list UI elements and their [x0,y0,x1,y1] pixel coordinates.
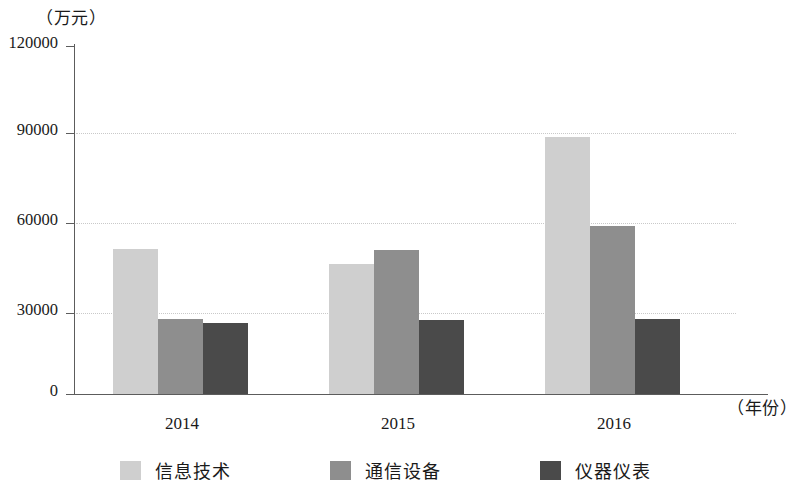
legend-label: 仪器仪表 [575,457,651,483]
x-axis-label-2014: 2014 [112,414,252,434]
legend-swatch-icon [120,461,141,480]
bar-chart: （万元） 120000 90000 60000 30000 0 2014 201… [0,0,801,487]
bar-2015-信息技术 [329,264,374,395]
chart-legend: 信息技术 通信设备 仪器仪表 [120,457,680,483]
legend-label: 信息技术 [155,457,231,483]
bar-2016-信息技术 [545,137,590,394]
bar-2014-通信设备 [158,319,203,394]
legend-item-information-technology: 信息技术 [120,457,231,483]
bar-2014-仪器仪表 [203,323,248,394]
x-axis-label-2015: 2015 [328,414,468,434]
bar-2015-通信设备 [374,250,419,394]
legend-item-instruments: 仪器仪表 [540,457,651,483]
legend-swatch-icon [540,461,561,480]
legend-swatch-icon [330,461,351,480]
x-axis-label-2016: 2016 [544,414,684,434]
bar-2015-仪器仪表 [419,320,464,394]
x-axis-caption: （年份） [727,394,797,419]
bar-2016-通信设备 [590,226,635,394]
legend-label: 通信设备 [365,457,441,483]
legend-item-communication-equipment: 通信设备 [330,457,441,483]
bar-2014-信息技术 [113,249,158,394]
bar-2016-仪器仪表 [635,319,680,394]
